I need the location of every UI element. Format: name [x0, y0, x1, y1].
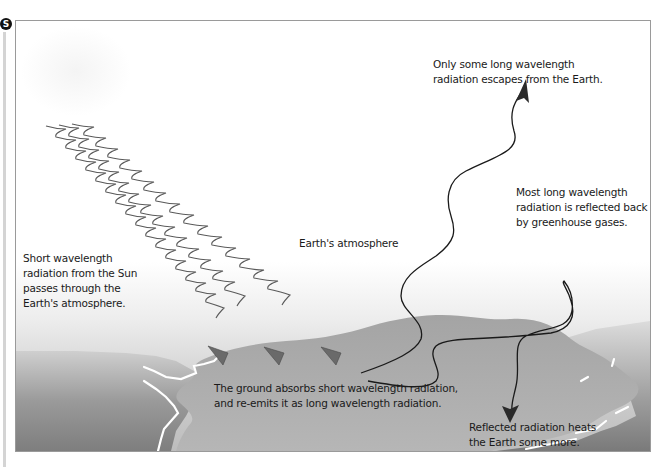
label-reflected-back: Most long wavelength radiation is reflec…: [516, 185, 647, 230]
label-short-wavelength: Short wavelength radiation from the Sun …: [23, 251, 137, 311]
sun-glow: [21, 26, 131, 116]
label-earths-atmosphere: Earth's atmosphere: [299, 236, 398, 251]
sea-left: [16, 351, 201, 451]
margin-rule: [3, 32, 6, 467]
label-reheats: Reflected radiation heats the Earth some…: [469, 420, 596, 450]
greenhouse-diagram: Short wavelength radiation from the Sun …: [15, 20, 651, 452]
section-badge: S: [0, 18, 12, 30]
label-escapes: Only some long wavelength radiation esca…: [433, 57, 603, 87]
label-ground-absorbs: The ground absorbs short wavelength radi…: [214, 381, 458, 411]
